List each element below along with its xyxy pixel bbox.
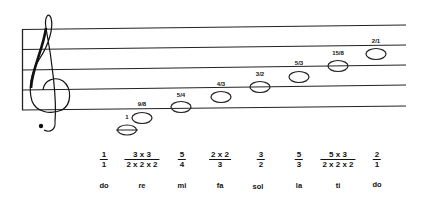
ratio-label: 2/1 — [372, 38, 380, 44]
solfege-syllable: re — [138, 181, 145, 190]
treble-clef-icon — [30, 15, 69, 131]
staff-line — [22, 85, 406, 90]
fraction-denominator: 2 x 2 x 2 — [124, 160, 159, 169]
fraction-numerator: 5 — [295, 150, 303, 160]
solfege-syllable: do — [99, 181, 108, 190]
ratio-label: 5/3 — [295, 60, 303, 66]
solfege-syllable: sol — [253, 182, 264, 191]
solfege-syllable: la — [296, 181, 302, 190]
solfege-syllable: mi — [178, 181, 187, 190]
fraction: 1 1 — [100, 150, 108, 169]
fraction: 3 2 — [257, 150, 265, 169]
note-la — [289, 72, 309, 83]
fraction: 2 x 2 3 — [209, 150, 231, 169]
ratio-label: 15/8 — [332, 50, 344, 56]
note-mi — [171, 102, 191, 113]
fraction-denominator: 2 — [257, 160, 265, 169]
fraction: 3 x 3 2 x 2 x 2 — [124, 150, 159, 169]
staff-line — [22, 106, 406, 110]
fraction: 5 3 — [295, 150, 303, 169]
fraction: 5 4 — [178, 150, 186, 169]
ratio-label: 9/8 — [138, 101, 146, 107]
solfege-syllable: fa — [217, 181, 224, 190]
solfege-syllable: ti — [336, 181, 341, 190]
fraction: 2 1 — [373, 150, 381, 169]
fraction-numerator: 2 — [373, 150, 381, 160]
musical-staff — [0, 0, 428, 206]
note-fa — [211, 92, 231, 103]
fraction-denominator: 1 — [100, 160, 108, 169]
solfege-syllable: do — [372, 180, 381, 189]
ratio-label: 5/4 — [177, 92, 185, 98]
fraction-numerator: 2 x 2 — [209, 150, 231, 160]
ratio-label: 1 — [125, 114, 128, 120]
staff-line — [22, 45, 406, 50]
note-re — [132, 113, 152, 124]
fraction-numerator: 3 — [257, 150, 265, 160]
fraction-denominator: 1 — [373, 160, 381, 169]
fraction-numerator: 1 — [100, 150, 108, 160]
fraction-denominator: 3 — [295, 160, 303, 169]
note-do-high — [366, 49, 386, 60]
fraction-denominator: 4 — [178, 160, 186, 169]
ratio-label: 4/3 — [217, 81, 225, 87]
fraction: 5 x 3 2 x 2 x 2 — [320, 150, 355, 169]
fraction-denominator: 3 — [209, 160, 231, 169]
fraction-numerator: 5 x 3 — [320, 150, 355, 160]
fraction-numerator: 5 — [178, 150, 186, 160]
staff-line — [22, 25, 406, 30]
fraction-numerator: 3 x 3 — [124, 150, 159, 160]
ratio-label: 3/2 — [256, 71, 264, 77]
fraction-denominator: 2 x 2 x 2 — [320, 160, 355, 169]
